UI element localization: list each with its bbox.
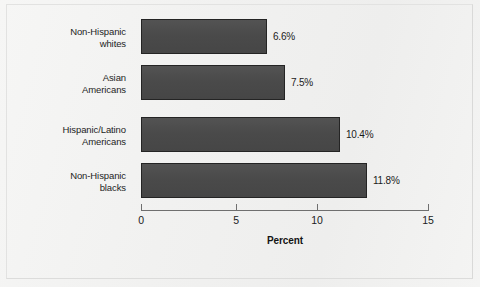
x-tick-2 [317,204,318,211]
category-label-2: Hispanic/Latino Americans [26,124,126,147]
x-axis-title: Percent [185,235,385,246]
bar-chart-figure: Non-Hispanic whites Asian Americans Hisp… [0,0,480,287]
bar-fill [142,20,266,53]
x-tick-0 [141,204,142,211]
bar-1 [141,65,285,100]
value-label-0: 6.6% [273,31,295,42]
x-tick-3 [428,204,429,211]
x-tick-label-0: 0 [126,214,156,226]
value-label-1: 7.5% [291,77,313,88]
bar-2 [141,117,340,152]
x-tick-label-3: 15 [413,214,443,226]
category-label-3: Non-Hispanic blacks [26,170,126,193]
value-label-3: 11.8% [373,175,400,186]
category-label-0: Non-Hispanic whites [26,26,126,49]
bar-fill [142,118,339,151]
bar-0 [141,19,267,54]
bar-3 [141,163,367,198]
category-label-1: Asian Americans [26,72,126,95]
x-tick-1 [236,204,237,211]
x-tick-label-1: 5 [221,214,251,226]
x-axis-line [141,210,429,211]
bar-fill [142,164,366,197]
x-tick-label-2: 10 [302,214,332,226]
value-label-2: 10.4% [346,129,373,140]
bar-fill [142,66,284,99]
